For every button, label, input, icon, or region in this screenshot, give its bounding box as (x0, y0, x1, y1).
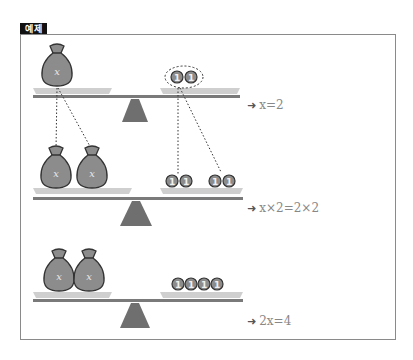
equation-text: x=2 (259, 98, 283, 112)
equation-1: ➜x=2 (247, 98, 284, 112)
coin-icon (223, 175, 235, 187)
scale-2 (33, 146, 243, 226)
bag-icon (42, 44, 72, 86)
coin-icon (172, 278, 184, 290)
arrow-icon: ➜ (247, 315, 256, 328)
coin-icon (180, 175, 192, 187)
balance-scale-diagram: x 1 (0, 0, 413, 360)
right-pan (160, 292, 243, 298)
coin-icon (166, 175, 178, 187)
equation-3: ➜2x=4 (247, 314, 291, 328)
coin-icon (198, 278, 210, 290)
fulcrum (120, 201, 152, 226)
scale-3 (33, 249, 243, 328)
scale-1 (33, 44, 240, 122)
bag-icon (41, 146, 71, 188)
equation-text: 2x=4 (259, 314, 291, 328)
beam (33, 95, 240, 98)
coin-icon (185, 71, 197, 83)
beam (33, 299, 243, 302)
bag-icon (74, 249, 104, 291)
equation-2: ➜x×2=2×2 (247, 201, 319, 215)
equation-text: x×2=2×2 (259, 201, 319, 215)
beam (33, 197, 243, 200)
bag-icon (77, 146, 107, 188)
right-pan (160, 88, 240, 94)
right-pan (160, 188, 243, 194)
fulcrum (122, 99, 148, 122)
bag-icon (44, 249, 74, 291)
left-pan (33, 292, 112, 298)
left-pan (33, 88, 112, 94)
coin-icon (185, 278, 197, 290)
fulcrum (120, 303, 150, 328)
arrow-icon: ➜ (247, 99, 256, 112)
coin-icon (171, 71, 183, 83)
left-pan (33, 188, 132, 194)
arrow-icon: ➜ (247, 202, 256, 215)
coin-icon (211, 278, 223, 290)
coin-icon (209, 175, 221, 187)
